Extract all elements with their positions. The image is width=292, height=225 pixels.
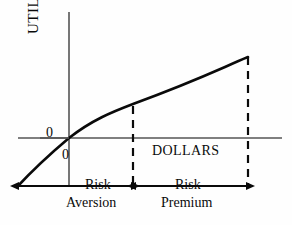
x-axis-label: DOLLARS <box>152 144 219 158</box>
diagram-canvas <box>0 0 292 225</box>
risk-premium-label-line1: Risk <box>175 178 201 192</box>
utility-function-diagram: UTILES DOLLARS 0 0 Risk Aversion Risk Pr… <box>0 0 292 225</box>
y-axis-origin-label: 0 <box>46 126 53 140</box>
risk-aversion-label-line2: Aversion <box>66 196 116 210</box>
x-axis-origin-label: 0 <box>62 148 69 162</box>
y-axis-label: UTILES <box>26 0 41 34</box>
risk-aversion-label-line1: Risk <box>85 178 111 192</box>
risk-premium-label-line2: Premium <box>161 196 212 210</box>
